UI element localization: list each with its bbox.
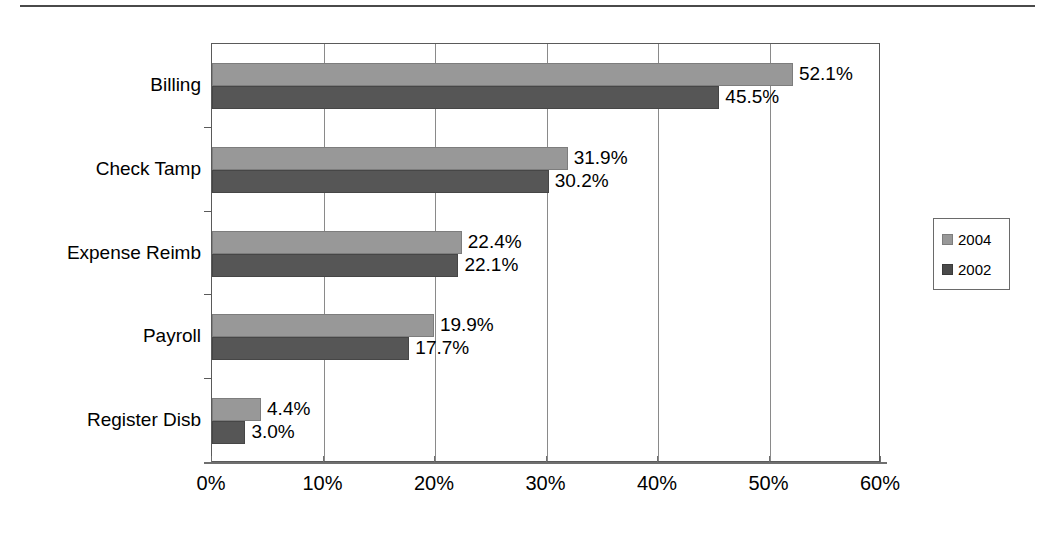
bar-value-label: 22.1% [464, 253, 518, 276]
bar-value-label: 17.7% [415, 336, 469, 359]
bar-value-label: 52.1% [799, 62, 853, 85]
x-axis-tick [211, 456, 212, 464]
legend-label: 2004 [958, 232, 991, 247]
x-axis-tick-label: 30% [501, 472, 591, 495]
bar-value-label: 31.9% [574, 146, 628, 169]
bar-2004-billing[interactable] [212, 63, 793, 86]
x-axis-tick [434, 456, 435, 464]
bar-chart-figure: BillingCheck TampExpense ReimbPayrollReg… [0, 0, 1054, 543]
chart-legend: 20042002 [933, 218, 1010, 290]
bar-group: 22.4%22.1% [212, 231, 879, 277]
bar-value-label: 19.9% [440, 313, 494, 336]
category-label-register-disb: Register Disb [0, 409, 201, 431]
category-axis-tick [204, 211, 211, 212]
bar-2002-register-disb[interactable] [212, 421, 245, 444]
bar-value-label: 22.4% [468, 230, 522, 253]
category-axis-tick [204, 294, 211, 295]
bar-2004-check-tamp[interactable] [212, 147, 568, 170]
category-axis: BillingCheck TampExpense ReimbPayrollReg… [0, 43, 203, 462]
bar-group: 31.9%30.2% [212, 147, 879, 193]
bar-2004-expense-reimb[interactable] [212, 231, 462, 254]
legend-item-2002[interactable]: 2002 [942, 259, 991, 279]
x-axis-tick-label: 0% [166, 472, 256, 495]
x-axis-tick [657, 456, 658, 464]
x-axis-tick [769, 456, 770, 464]
x-axis-tick-label: 20% [389, 472, 479, 495]
x-axis-tick-label: 40% [612, 472, 702, 495]
category-axis-tick [204, 127, 211, 128]
x-axis-tick [880, 456, 881, 464]
legend-swatch-icon [942, 234, 953, 245]
bar-value-label: 30.2% [555, 169, 609, 192]
bar-2004-register-disb[interactable] [212, 398, 261, 421]
bar-2002-check-tamp[interactable] [212, 170, 549, 193]
bar-value-label: 4.4% [267, 397, 310, 420]
category-label-payroll: Payroll [0, 325, 201, 347]
bar-2002-billing[interactable] [212, 86, 719, 109]
page-top-rule [20, 5, 1035, 7]
category-label-billing: Billing [0, 74, 201, 96]
x-axis-tick [323, 456, 324, 464]
bar-group: 19.9%17.7% [212, 314, 879, 360]
category-label-expense-reimb: Expense Reimb [0, 242, 201, 264]
x-axis-tick-label: 10% [278, 472, 368, 495]
x-axis-tick-label: 50% [724, 472, 814, 495]
legend-label: 2002 [958, 262, 991, 277]
category-label-check-tamp: Check Tamp [0, 158, 201, 180]
plot-area: 52.1%45.5%31.9%30.2%22.4%22.1%19.9%17.7%… [211, 43, 880, 462]
bar-2002-payroll[interactable] [212, 337, 409, 360]
bar-group: 4.4%3.0% [212, 398, 879, 444]
x-axis-tick [546, 456, 547, 464]
category-axis-tick [204, 378, 211, 379]
bar-group: 52.1%45.5% [212, 63, 879, 109]
bar-2004-payroll[interactable] [212, 314, 434, 337]
legend-swatch-icon [942, 264, 953, 275]
bar-2002-expense-reimb[interactable] [212, 254, 458, 277]
bar-value-label: 3.0% [251, 420, 294, 443]
bar-value-label: 45.5% [725, 85, 779, 108]
legend-item-2004[interactable]: 2004 [942, 229, 991, 249]
x-axis-tick-label: 60% [835, 472, 925, 495]
